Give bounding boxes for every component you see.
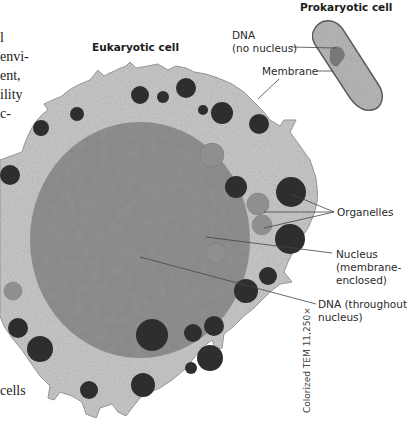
label-dna-throughout-line2: nucleus) bbox=[318, 311, 363, 324]
label-membrane: Membrane bbox=[262, 65, 318, 78]
label-nucleus-line3: enclosed) bbox=[336, 274, 387, 287]
eukaryotic-cell bbox=[0, 62, 318, 418]
label-nucleus-line1: Nucleus bbox=[336, 248, 378, 261]
label-nucleus-line2: (membrane- bbox=[336, 261, 401, 274]
label-organelles: Organelles bbox=[337, 206, 393, 219]
eukaryotic-cell-title: Eukaryotic cell bbox=[92, 41, 179, 53]
leader-membrane-cell bbox=[258, 79, 279, 99]
label-dna-no-nucleus-line2: (no nucleus) bbox=[232, 42, 297, 55]
micrograph-caption: Colorized TEM 11,250× bbox=[302, 307, 312, 413]
bacterium-body bbox=[312, 21, 382, 111]
prokaryotic-cell-title: Prokaryotic cell bbox=[300, 1, 392, 13]
label-dna-no-nucleus-line1: DNA bbox=[232, 29, 255, 42]
label-dna-throughout-line1: DNA (throughout bbox=[318, 298, 407, 311]
prokaryotic-cell bbox=[312, 21, 382, 111]
